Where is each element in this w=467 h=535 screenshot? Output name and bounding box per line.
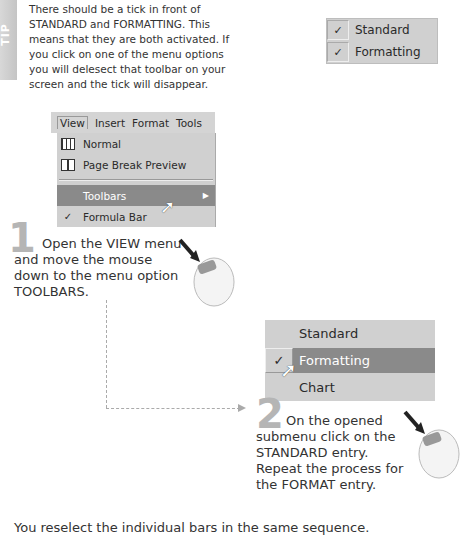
check-icon: ✓ xyxy=(61,211,75,222)
check-icon: ✓ xyxy=(327,42,349,62)
toolbar-checklist: ✓ Standard ✓ Formatting xyxy=(326,18,438,64)
step-2-text: On the opened submenu click on the STAND… xyxy=(256,413,406,493)
grid-icon xyxy=(61,138,75,150)
menu-item-page-break-preview[interactable]: Page Break Preview xyxy=(57,154,215,175)
tip-text: There should be a tick in front of STAND… xyxy=(29,2,244,92)
mini-item-formatting[interactable]: ✓ Formatting xyxy=(327,41,437,63)
mouse-icon xyxy=(403,410,463,480)
footer-text: You reselect the individual bars in the … xyxy=(14,520,369,535)
connector-line xyxy=(106,408,240,409)
mini-item-standard[interactable]: ✓ Standard xyxy=(327,19,437,41)
menu-insert[interactable]: Insert xyxy=(95,117,125,129)
check-icon: ✓ xyxy=(327,20,349,40)
page-break-icon xyxy=(61,159,75,171)
menu-view[interactable]: View xyxy=(57,116,88,129)
connector-arrow-icon xyxy=(238,404,246,412)
mouse-icon xyxy=(178,238,238,308)
menu-bar: View Insert Format Tools xyxy=(51,112,215,133)
menu-separator xyxy=(59,179,213,181)
view-menu-dropdown: Normal Page Break Preview Toolbars ▶ ✓ F… xyxy=(57,133,216,227)
menu-tools[interactable]: Tools xyxy=(176,117,202,129)
menu-item-normal[interactable]: Normal xyxy=(57,133,215,154)
menu-item-formula-bar[interactable]: ✓ Formula Bar xyxy=(57,206,215,227)
cursor-arrow-icon: ➚ xyxy=(160,196,175,217)
connector-line xyxy=(106,300,107,408)
cursor-arrow-icon: ➚ xyxy=(280,358,297,382)
menu-format[interactable]: Format xyxy=(132,117,169,129)
submenu-arrow-icon: ▶ xyxy=(203,191,209,200)
menu-item-toolbars[interactable]: Toolbars ▶ xyxy=(57,185,215,206)
tip-label: TIP xyxy=(0,23,12,46)
step-1-text: Open the VIEW menu and move the mouse do… xyxy=(14,236,184,300)
submenu-item-standard[interactable]: Standard xyxy=(265,320,435,347)
